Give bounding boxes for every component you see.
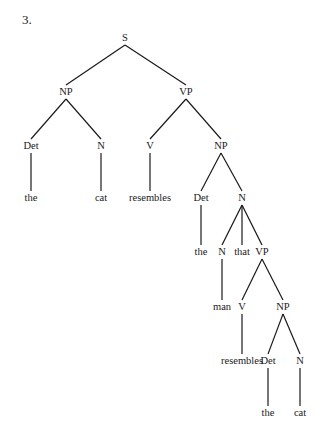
tree-node-resembles2: resembles bbox=[221, 356, 263, 367]
tree-node-n1: N bbox=[97, 141, 105, 152]
tree-node-resembles1: resembles bbox=[129, 193, 171, 204]
tree-node-the1: the bbox=[25, 193, 38, 204]
tree-edge bbox=[262, 259, 283, 300]
tree-edge bbox=[283, 314, 300, 354]
tree-edge bbox=[242, 259, 262, 300]
tree-node-np3: NP bbox=[276, 302, 289, 313]
tree-edge bbox=[31, 99, 66, 139]
tree-node-v1: V bbox=[146, 141, 154, 152]
tree-node-the2: the bbox=[195, 247, 208, 258]
tree-node-n4: N bbox=[296, 356, 304, 367]
tree-edge bbox=[222, 205, 242, 245]
tree-edge bbox=[66, 45, 125, 85]
tree-edge bbox=[186, 99, 221, 139]
tree-node-vp2: VP bbox=[255, 247, 268, 258]
tree-node-det3: Det bbox=[260, 356, 275, 367]
tree-node-v2: V bbox=[238, 302, 246, 313]
tree-edge bbox=[201, 153, 221, 191]
tree-node-that: that bbox=[234, 247, 250, 258]
tree-node-cat1: cat bbox=[95, 193, 107, 204]
tree-edge bbox=[66, 99, 101, 139]
tree-node-det1: Det bbox=[23, 141, 38, 152]
tree-node-n2: N bbox=[238, 193, 246, 204]
tree-edge bbox=[125, 45, 186, 85]
tree-node-np2: NP bbox=[214, 141, 227, 152]
tree-edge bbox=[242, 205, 262, 245]
tree-edge bbox=[150, 99, 186, 139]
tree-node-n3: N bbox=[218, 247, 226, 258]
tree-node-det2: Det bbox=[193, 193, 208, 204]
tree-node-np1: NP bbox=[59, 87, 72, 98]
tree-edge bbox=[268, 314, 283, 354]
tree-edges bbox=[0, 0, 327, 437]
tree-node-s: S bbox=[122, 33, 128, 44]
tree-node-the3: the bbox=[262, 408, 275, 419]
tree-node-man: man bbox=[213, 302, 231, 313]
tree-node-vp1: VP bbox=[179, 87, 192, 98]
tree-edge bbox=[221, 153, 242, 191]
tree-node-cat2: cat bbox=[294, 408, 306, 419]
